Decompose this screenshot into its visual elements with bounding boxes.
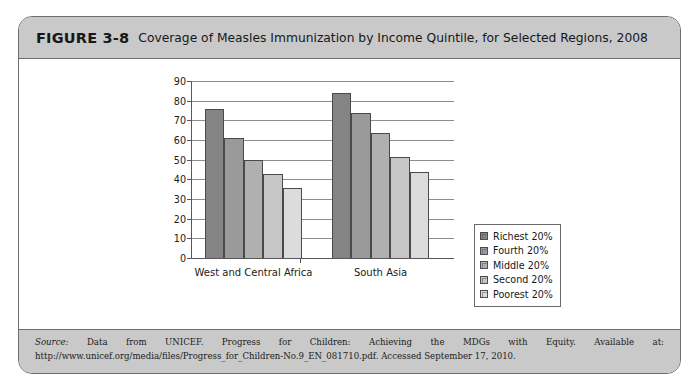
y-axis-tick [187, 140, 192, 141]
y-axis-tick [187, 160, 192, 161]
legend-label: Poorest 20% [493, 289, 553, 300]
figure-header: FIGURE 3-8 Coverage of Measles Immunizat… [19, 17, 680, 59]
legend-item: Poorest 20% [480, 287, 553, 302]
legend-swatch-icon [480, 261, 488, 269]
y-axis-tick-label: 90 [174, 76, 186, 87]
y-axis-tick [187, 219, 192, 220]
y-axis-tick-label: 0 [180, 253, 186, 264]
gridline [192, 81, 454, 82]
legend-swatch-icon [480, 232, 488, 240]
legend-item: Richest 20% [480, 229, 553, 244]
y-axis-tick-label: 10 [174, 233, 186, 244]
legend-item: Fourth 20% [480, 244, 553, 259]
figure-body: 0102030405060708090West and Central Afri… [19, 59, 680, 331]
source-body: Data from UNICEF. Progress for Children:… [35, 337, 664, 361]
y-axis-tick-label: 40 [174, 174, 186, 185]
figure-footer: Source: Data from UNICEF. Progress for C… [19, 329, 680, 373]
legend-label: Fourth 20% [493, 245, 548, 256]
bar [224, 138, 244, 258]
legend-label: Richest 20% [493, 231, 553, 242]
figure-caption: Coverage of Measles Immunization by Inco… [138, 31, 648, 45]
gridline [192, 120, 454, 121]
bar [244, 160, 264, 258]
bar [371, 133, 391, 258]
y-axis-tick [187, 81, 192, 82]
legend-label: Middle 20% [493, 260, 549, 271]
bar [205, 109, 225, 258]
figure-number: FIGURE 3-8 [36, 30, 129, 46]
y-axis-tick [187, 199, 192, 200]
y-axis-tick [187, 101, 192, 102]
x-axis-group-label: South Asia [354, 267, 407, 278]
bar [351, 113, 371, 258]
legend-item: Middle 20% [480, 258, 553, 273]
bar [390, 157, 410, 258]
legend-swatch-icon [480, 290, 488, 298]
y-axis-tick-label: 70 [174, 115, 186, 126]
x-axis-tick [300, 258, 301, 263]
y-axis-tick [187, 179, 192, 180]
y-axis-tick-label: 80 [174, 95, 186, 106]
source-label: Source: [35, 337, 69, 347]
y-axis-tick-label: 60 [174, 135, 186, 146]
gridline [192, 101, 454, 102]
y-axis-tick-label: 20 [174, 213, 186, 224]
chart-legend: Richest 20%Fourth 20%Middle 20%Second 20… [474, 224, 561, 307]
bar-chart: 0102030405060708090West and Central Afri… [19, 59, 681, 331]
bar [263, 174, 283, 258]
legend-swatch-icon [480, 247, 488, 255]
bar [410, 172, 430, 258]
plot-area: 0102030405060708090West and Central Afri… [191, 81, 454, 259]
y-axis-tick [187, 238, 192, 239]
y-axis-tick-label: 50 [174, 154, 186, 165]
bar [283, 188, 303, 258]
y-axis-tick [187, 120, 192, 121]
legend-item: Second 20% [480, 273, 553, 288]
y-axis-tick [187, 258, 192, 259]
legend-swatch-icon [480, 276, 488, 284]
figure-frame: FIGURE 3-8 Coverage of Measles Immunizat… [18, 16, 681, 374]
source-note: Source: Data from UNICEF. Progress for C… [35, 336, 664, 363]
y-axis-tick-label: 30 [174, 194, 186, 205]
bar [332, 93, 352, 258]
legend-label: Second 20% [493, 274, 553, 285]
x-axis-group-label: West and Central Africa [195, 267, 313, 278]
